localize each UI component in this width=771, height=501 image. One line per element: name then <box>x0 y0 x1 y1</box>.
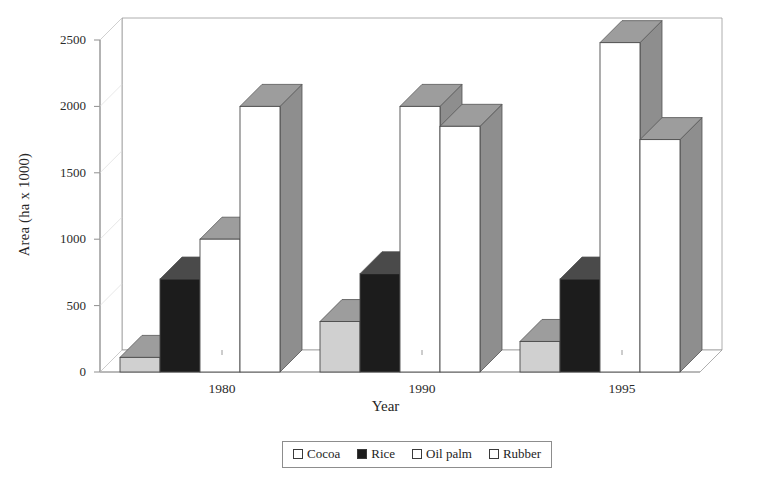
legend-label-rice: Rice <box>371 446 395 462</box>
y-axis-tick-label: 2500 <box>34 32 86 48</box>
legend-swatch-oil-palm-icon <box>412 449 422 459</box>
legend-swatch-cocoa-icon <box>293 449 303 459</box>
legend-item-rubber[interactable]: Rubber <box>489 446 541 462</box>
legend-label-cocoa: Cocoa <box>307 446 340 462</box>
plot-left-wall <box>100 18 122 372</box>
bar-rubber-1990 <box>440 104 502 372</box>
bar-chart-figure: Area (ha x 1000) 05001000150020002500 19… <box>0 0 771 501</box>
y-axis-tick-label: 2000 <box>34 98 86 114</box>
y-axis-title: Area (ha x 1000) <box>16 105 33 305</box>
y-axis-tick-label: 1000 <box>34 231 86 247</box>
x-axis-title: Year <box>0 398 771 415</box>
bar-rubber-1980 <box>240 84 302 372</box>
chart-plot-area <box>0 0 771 501</box>
y-axis-tick-labels: 05001000150020002500 <box>34 0 86 501</box>
legend-label-rubber: Rubber <box>503 446 541 462</box>
chart-legend: Cocoa Rice Oil palm Rubber <box>282 441 552 468</box>
legend-item-cocoa[interactable]: Cocoa <box>293 446 340 462</box>
legend-item-rice[interactable]: Rice <box>357 446 395 462</box>
legend-item-oil-palm[interactable]: Oil palm <box>412 446 472 462</box>
legend-swatch-rubber-icon <box>489 449 499 459</box>
y-axis-tick-label: 0 <box>34 364 86 380</box>
bar-rubber-1995 <box>640 118 702 372</box>
y-axis-tick-label: 500 <box>34 298 86 314</box>
legend-label-oil-palm: Oil palm <box>426 446 472 462</box>
y-axis-tick-label: 1500 <box>34 165 86 181</box>
x-axis-tick-label: 1990 <box>409 381 436 397</box>
legend-swatch-rice-icon <box>357 449 367 459</box>
x-axis-tick-label: 1980 <box>209 381 236 397</box>
x-axis-tick-label: 1995 <box>609 381 636 397</box>
